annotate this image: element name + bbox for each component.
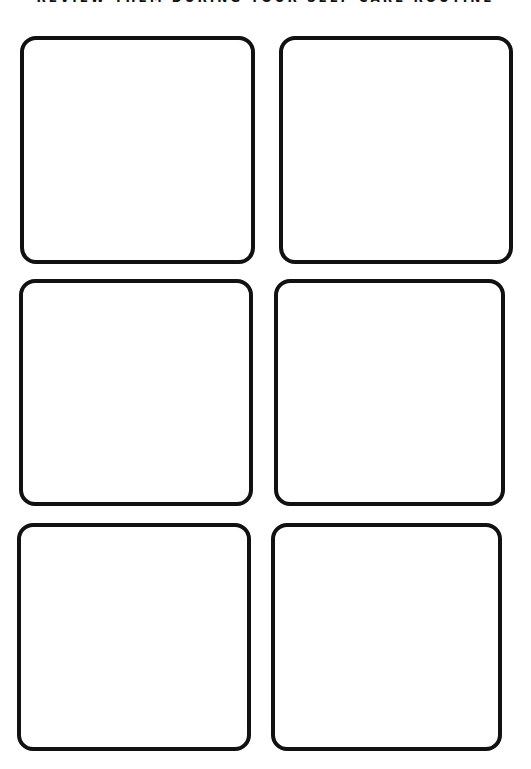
card-box-6 bbox=[271, 523, 502, 751]
card-box-3 bbox=[19, 279, 253, 506]
header-instruction: REVIEW THEM DURING YOUR SELF CARE ROUTIN… bbox=[0, 0, 531, 5]
card-box-2 bbox=[279, 36, 513, 264]
card-box-1 bbox=[20, 36, 255, 264]
card-box-4 bbox=[274, 279, 505, 506]
card-box-5 bbox=[17, 523, 251, 751]
